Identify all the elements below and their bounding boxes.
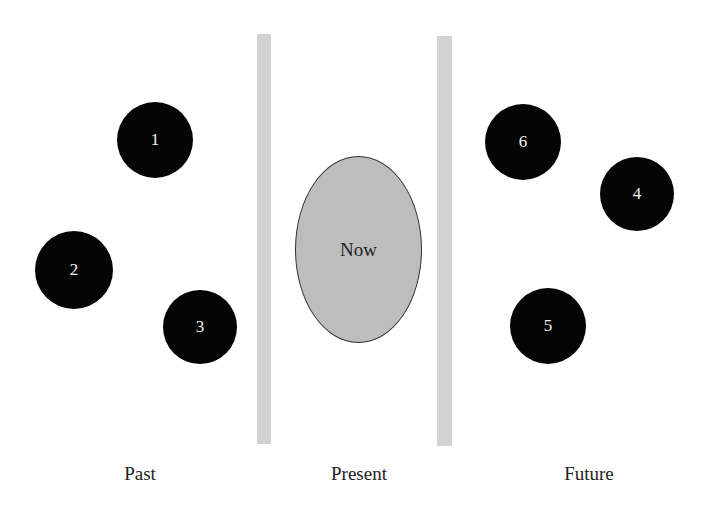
event-number: 3 [196,317,205,337]
past-present-divider [257,34,271,444]
present-future-divider [437,36,452,446]
event-circle-2: 2 [35,231,113,309]
event-circle-1: 1 [117,102,193,178]
event-number: 2 [70,260,79,280]
event-number: 6 [519,132,528,152]
now-ellipse: Now [295,156,422,343]
event-circle-6: 6 [485,104,561,180]
event-number: 4 [633,184,642,204]
event-number: 1 [151,130,160,150]
section-label-past: Past [124,463,156,485]
event-circle-5: 5 [510,288,586,364]
event-circle-4: 4 [600,157,674,231]
now-label: Now [340,239,377,261]
event-circle-3: 3 [163,290,237,364]
section-label-future: Future [564,463,614,485]
section-label-present: Present [331,463,387,485]
event-number: 5 [544,316,553,336]
